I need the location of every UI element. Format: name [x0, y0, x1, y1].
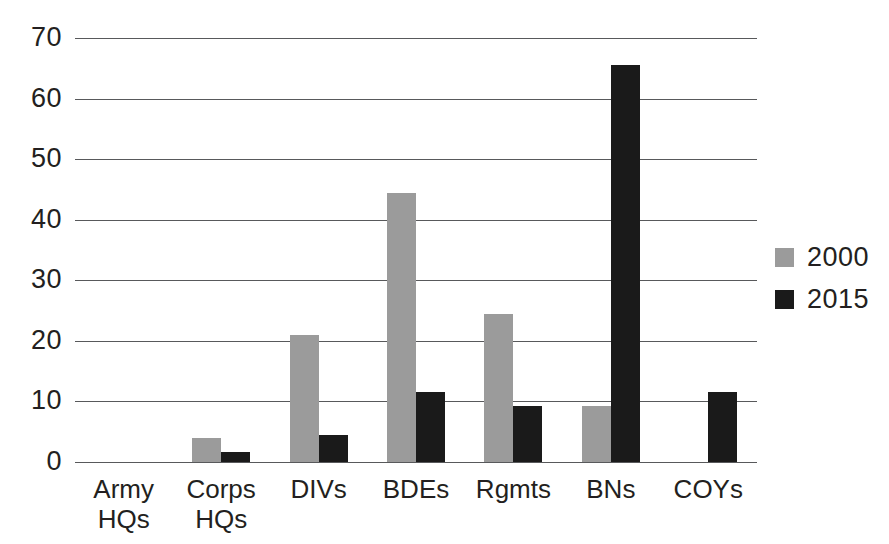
- legend-label-2000: 2000: [807, 244, 869, 271]
- y-tick-label-0: 0: [10, 448, 62, 475]
- y-tick-label-60: 60: [10, 85, 62, 112]
- legend-swatch-icon-2000: [775, 248, 794, 267]
- bar-2000-3: [387, 193, 416, 462]
- y-tick-label-20: 20: [10, 327, 62, 354]
- y-tick-label-30: 30: [10, 266, 62, 293]
- legend-item-2000[interactable]: 2000: [775, 236, 885, 278]
- y-tick-label-40: 40: [10, 206, 62, 233]
- bar-2015-3: [416, 392, 445, 462]
- bar-2000-5: [582, 406, 611, 462]
- bar-2015-6: [708, 392, 737, 462]
- bar-chart: 010203040506070 Army HQsCorps HQsDIVsBDE…: [0, 0, 889, 544]
- y-tick-label-50: 50: [10, 145, 62, 172]
- y-tick-label-10: 10: [10, 387, 62, 414]
- bar-2015-2: [319, 435, 348, 462]
- bar-2000-4: [484, 314, 513, 462]
- bar-2000-1: [192, 438, 221, 462]
- bar-2015-5: [611, 65, 640, 462]
- gridline-40: [75, 220, 757, 221]
- plot-area: [75, 38, 757, 462]
- gridline-30: [75, 280, 757, 281]
- gridline-0: [75, 462, 757, 463]
- legend: 20002015: [775, 236, 885, 320]
- x-tick-label-6: COYs: [628, 474, 788, 504]
- legend-swatch-icon-2015: [775, 290, 794, 309]
- gridline-70: [75, 38, 757, 39]
- gridline-50: [75, 159, 757, 160]
- gridline-60: [75, 99, 757, 100]
- legend-label-2015: 2015: [807, 286, 869, 313]
- bar-2015-1: [221, 452, 250, 462]
- bar-2015-4: [513, 406, 542, 462]
- bar-2000-2: [290, 335, 319, 462]
- legend-item-2015[interactable]: 2015: [775, 278, 885, 320]
- y-axis-tick-labels: 010203040506070: [0, 0, 62, 544]
- y-tick-label-70: 70: [10, 24, 62, 51]
- gridline-20: [75, 341, 757, 342]
